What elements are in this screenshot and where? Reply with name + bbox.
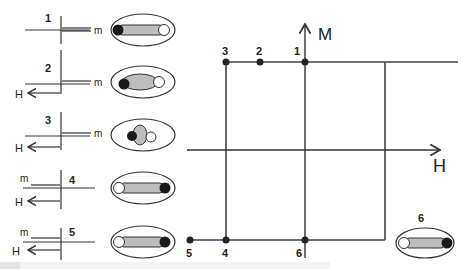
state-2-h: H	[15, 88, 23, 100]
loop-points	[187, 59, 309, 244]
state-4	[23, 170, 95, 209]
state-4-h: H	[15, 196, 23, 208]
state-2	[25, 50, 91, 94]
point-label-1: 1	[294, 45, 300, 57]
state-3	[25, 112, 91, 150]
state-5-m: m	[20, 227, 28, 238]
state-5-label: 5	[69, 226, 75, 238]
point-2	[257, 59, 264, 66]
state-1-label: 1	[45, 12, 51, 24]
state-3-m: m	[94, 128, 102, 139]
point-6	[302, 237, 309, 244]
state-1	[25, 16, 91, 44]
point-label-2: 2	[256, 45, 262, 57]
molecule-1-icon	[111, 14, 175, 46]
molecule-2-icon	[111, 66, 175, 98]
state-4-m: m	[20, 173, 28, 184]
state-5-h: H	[12, 245, 20, 257]
point-4	[223, 237, 230, 244]
molecule-5-icon	[111, 226, 175, 258]
point-1	[302, 59, 309, 66]
state-2-label: 2	[45, 62, 51, 74]
state-3-h: H	[15, 142, 23, 154]
point-label-3: 3	[222, 45, 228, 57]
point-label-5: 5	[186, 247, 192, 259]
inset-label: 6	[418, 212, 424, 224]
state-1-m: m	[94, 25, 102, 36]
inset-molecule-6: 6	[396, 212, 454, 258]
state-3-label: 3	[45, 114, 51, 126]
state-2-m: m	[94, 77, 102, 88]
point-label-4: 4	[222, 247, 229, 259]
hysteresis-diagram: M H 1 2 3 4 5 6 6 1 m	[0, 0, 467, 271]
figure-caption-faded	[0, 262, 330, 269]
m-axis-label: M	[318, 25, 332, 44]
state-4-label: 4	[69, 174, 76, 186]
point-3	[223, 59, 230, 66]
state-5	[23, 228, 95, 260]
h-axis-label: H	[433, 156, 446, 176]
point-label-6: 6	[296, 247, 302, 259]
point-5	[187, 237, 194, 244]
molecule-4-icon	[111, 172, 175, 204]
molecule-3-icon	[111, 119, 175, 151]
